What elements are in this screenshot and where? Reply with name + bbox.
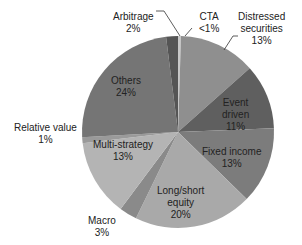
label-relative-pct: 1%	[14, 134, 77, 146]
label-cta-name: CTA	[199, 11, 219, 23]
label-event-driven: Event driven 11%	[222, 97, 249, 133]
label-distressed: Distressed securities 13%	[238, 11, 285, 47]
label-fixed-income: Fixed income 13%	[202, 146, 261, 170]
label-relative-name: Relative value	[14, 122, 77, 134]
label-event-name1: Event	[222, 97, 249, 109]
label-long-short-equity: Long/short equity 20%	[157, 185, 204, 221]
label-multi-name: Multi-strategy	[93, 139, 153, 151]
leader-distressed	[224, 36, 238, 50]
label-macro-name: Macro	[88, 215, 116, 227]
leader-cta	[185, 28, 192, 36]
label-longshort-name1: Long/short	[157, 185, 204, 197]
label-others: Others 24%	[111, 75, 141, 99]
label-arbitrage-name: Arbitrage	[113, 11, 154, 23]
label-arbitrage-pct: 2%	[113, 23, 154, 35]
label-event-name2: driven	[222, 109, 249, 121]
label-distressed-name1: Distressed	[238, 11, 285, 23]
label-macro: Macro 3%	[88, 215, 116, 239]
label-distressed-name2: securities	[238, 23, 285, 35]
label-cta: CTA <1%	[199, 11, 219, 35]
label-others-pct: 24%	[111, 87, 141, 99]
label-macro-pct: 3%	[88, 227, 116, 239]
label-longshort-pct: 20%	[157, 209, 204, 221]
label-multi-pct: 13%	[93, 151, 153, 163]
label-multi-strategy: Multi-strategy 13%	[93, 139, 153, 163]
label-fixed-pct: 13%	[202, 158, 261, 170]
label-fixed-name: Fixed income	[202, 146, 261, 158]
label-cta-pct: <1%	[199, 23, 219, 35]
leader-arbitrage	[156, 11, 180, 36]
label-distressed-pct: 13%	[238, 35, 285, 47]
label-longshort-name2: equity	[157, 197, 204, 209]
label-relative-value: Relative value 1%	[14, 122, 77, 146]
label-event-pct: 11%	[222, 121, 249, 133]
label-arbitrage: Arbitrage 2%	[113, 11, 154, 35]
label-others-name: Others	[111, 75, 141, 87]
